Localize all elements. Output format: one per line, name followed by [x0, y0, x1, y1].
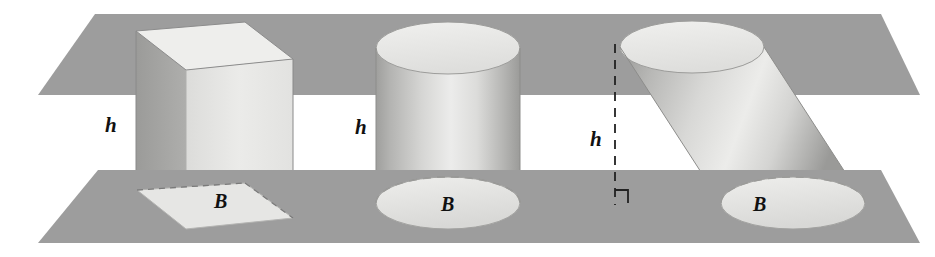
right-cylinder-top-disc	[376, 22, 520, 74]
base-label-3: B	[752, 193, 766, 215]
oblique-cylinder-top-disc	[620, 21, 764, 73]
height-label-2: h	[355, 115, 367, 139]
height-label-1: h	[105, 113, 117, 137]
height-label-3: h	[590, 127, 602, 151]
base-label-1: B	[213, 190, 227, 212]
base-label-2: B	[440, 193, 454, 215]
figure-canvas: h h h B B B	[0, 0, 935, 257]
geometry-figure: h h h B B B	[0, 0, 935, 257]
